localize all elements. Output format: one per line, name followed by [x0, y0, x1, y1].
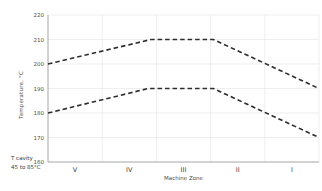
x-tick-label: II: [236, 166, 240, 174]
x-tick-label: I: [291, 166, 293, 174]
y-tick-label: 220: [34, 12, 45, 18]
y-axis-title: Temperature, °C: [18, 55, 28, 135]
annotation-line-1: T cavity: [11, 154, 41, 163]
y-tick-label: 210: [34, 37, 45, 43]
chart-canvas: 220210200190180170160VIVIIIIII Temperatu…: [0, 0, 322, 191]
corner-annotation: T cavity 45 to 85°C: [11, 154, 41, 172]
x-axis-title: Machine Zone: [48, 175, 319, 181]
plot-area: 220210200190180170160VIVIIIIII: [0, 0, 322, 191]
y-tick-label: 180: [34, 110, 45, 116]
y-tick-label: 200: [34, 61, 45, 67]
x-tick-label: V: [73, 166, 78, 174]
y-tick-label: 170: [34, 135, 45, 141]
x-tick-label: III: [181, 166, 187, 174]
x-tick-label: IV: [126, 166, 133, 174]
y-tick-label: 190: [34, 86, 45, 92]
annotation-line-2: 45 to 85°C: [11, 163, 41, 172]
